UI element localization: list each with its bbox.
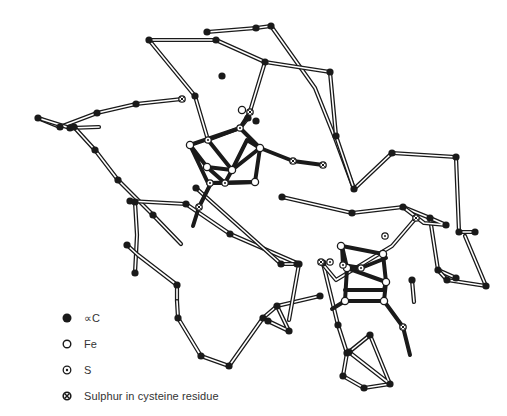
- iron-atom: [228, 166, 235, 173]
- backbone-bond-core: [240, 62, 265, 128]
- alpha-carbon-atom: [225, 362, 232, 369]
- alpha-carbon-atom: [326, 68, 333, 75]
- legend: ∝C Fe S Sulphur in cysteine residue: [60, 305, 219, 409]
- alpha-carbon-atom: [388, 149, 395, 156]
- iron-atom: [382, 278, 389, 285]
- alpha-carbon-atom: [173, 281, 180, 288]
- alpha-carbon-atom: [434, 266, 441, 273]
- alpha-carbon-atom: [145, 36, 152, 43]
- backbone-bond-core: [149, 40, 208, 140]
- alpha-carbon-atom: [191, 92, 198, 99]
- iron-atom: [256, 144, 263, 151]
- legend-item-iron: Fe: [60, 331, 219, 357]
- sulphur-atom-dot: [384, 235, 386, 237]
- alpha-carbon-atom: [455, 228, 462, 235]
- alpha-carbon-atom: [366, 331, 373, 338]
- filled-circle-icon: [60, 311, 74, 325]
- alpha-carbon-atom: [123, 241, 130, 248]
- alpha-carbon-atom: [70, 123, 77, 130]
- alpha-carbon-atom: [252, 24, 259, 31]
- alpha-carbon-atom: [360, 384, 367, 391]
- alpha-carbon-atom: [334, 321, 341, 328]
- sulphur-atom-dot: [207, 139, 209, 141]
- alpha-carbon-atom: [218, 72, 225, 79]
- dot-circle-icon: [60, 363, 74, 377]
- legend-label: ∝C: [84, 312, 100, 325]
- iron-atom: [238, 106, 245, 113]
- alpha-carbon-atom: [91, 146, 98, 153]
- alpha-carbon-atom: [267, 22, 274, 29]
- alpha-carbon-atom: [386, 380, 393, 387]
- alpha-carbon-atom: [273, 302, 280, 309]
- alpha-carbon-atom: [278, 193, 285, 200]
- alpha-carbon-atom: [295, 260, 302, 267]
- alpha-carbon-atom: [339, 372, 346, 379]
- alpha-carbon-atom: [442, 221, 449, 228]
- legend-item-cysteine-sulphur: Sulphur in cysteine residue: [60, 383, 219, 409]
- alpha-carbon-atom: [471, 228, 478, 235]
- legend-item-sulphur: S: [60, 357, 219, 383]
- iron-atom: [337, 242, 344, 249]
- legend-label: Sulphur in cysteine residue: [84, 390, 219, 402]
- alpha-carbon-atom: [452, 274, 459, 281]
- alpha-carbon-atom: [226, 230, 233, 237]
- alpha-carbon-atom: [399, 203, 406, 210]
- alpha-carbon-atom: [350, 185, 357, 192]
- backbone-bond-core: [289, 264, 299, 320]
- alpha-carbon-atom: [345, 348, 352, 355]
- sulphur-atom-dot: [360, 267, 362, 269]
- alpha-carbon-atom: [203, 28, 210, 35]
- alpha-carbon-atom: [131, 198, 138, 205]
- alpha-carbon-atom: [348, 209, 355, 216]
- alpha-carbon-atom: [452, 153, 459, 160]
- alpha-carbon-atom: [332, 132, 339, 139]
- iron-atom: [203, 163, 210, 170]
- backbone-bond-core: [74, 127, 181, 244]
- alpha-carbon-atom: [182, 200, 189, 207]
- alpha-carbon-atom: [277, 260, 284, 267]
- cluster-bond: [345, 268, 386, 290]
- alpha-carbon-atom: [264, 317, 271, 324]
- iron-atom: [341, 297, 348, 304]
- alpha-carbon-atom: [408, 276, 415, 283]
- sulphur-atom-dot: [342, 264, 344, 266]
- open-circle-icon: [60, 337, 74, 351]
- backbone-bond: [349, 335, 390, 384]
- sulphur-atom-dot: [239, 127, 241, 129]
- alpha-carbon-atom: [261, 58, 268, 65]
- backbone-bond: [130, 201, 299, 264]
- alpha-carbon-atom: [316, 292, 323, 299]
- backbone-bond: [149, 40, 208, 140]
- legend-item-alpha-carbon: ∝C: [60, 305, 219, 331]
- alpha-carbon-atom: [149, 211, 156, 218]
- iron-sulphur-cluster-bonds: [190, 112, 410, 355]
- iron-atom: [380, 297, 387, 304]
- backbone-bond-core: [321, 218, 416, 280]
- alpha-carbon-atom: [56, 123, 63, 130]
- alpha-carbon-atom: [34, 114, 41, 121]
- backbone-bond: [321, 218, 416, 280]
- cross-circle-icon: [60, 389, 74, 403]
- legend-label: S: [84, 364, 91, 376]
- alpha-carbon-atom: [482, 282, 489, 289]
- alpha-carbon-atom: [192, 184, 199, 191]
- alpha-carbon-atom: [114, 176, 121, 183]
- alpha-carbon-atom: [426, 214, 433, 221]
- alpha-carbon-atom: [285, 327, 292, 334]
- iron-atom: [379, 250, 386, 257]
- sulphur-atom-dot: [224, 182, 226, 184]
- iron-atom: [186, 141, 193, 148]
- alpha-carbon-atom: [132, 100, 139, 107]
- sulphur-atom-dot: [209, 182, 211, 184]
- legend-label: Fe: [84, 338, 97, 350]
- alpha-carbon-atom: [252, 117, 259, 124]
- iron-atom: [251, 178, 258, 185]
- alpha-carbon-atom: [131, 269, 138, 276]
- alpha-carbon-atom: [443, 276, 450, 283]
- sulphur-atom-dot: [329, 261, 331, 263]
- alpha-carbon-atom: [93, 109, 100, 116]
- alpha-carbon-atom: [212, 36, 219, 43]
